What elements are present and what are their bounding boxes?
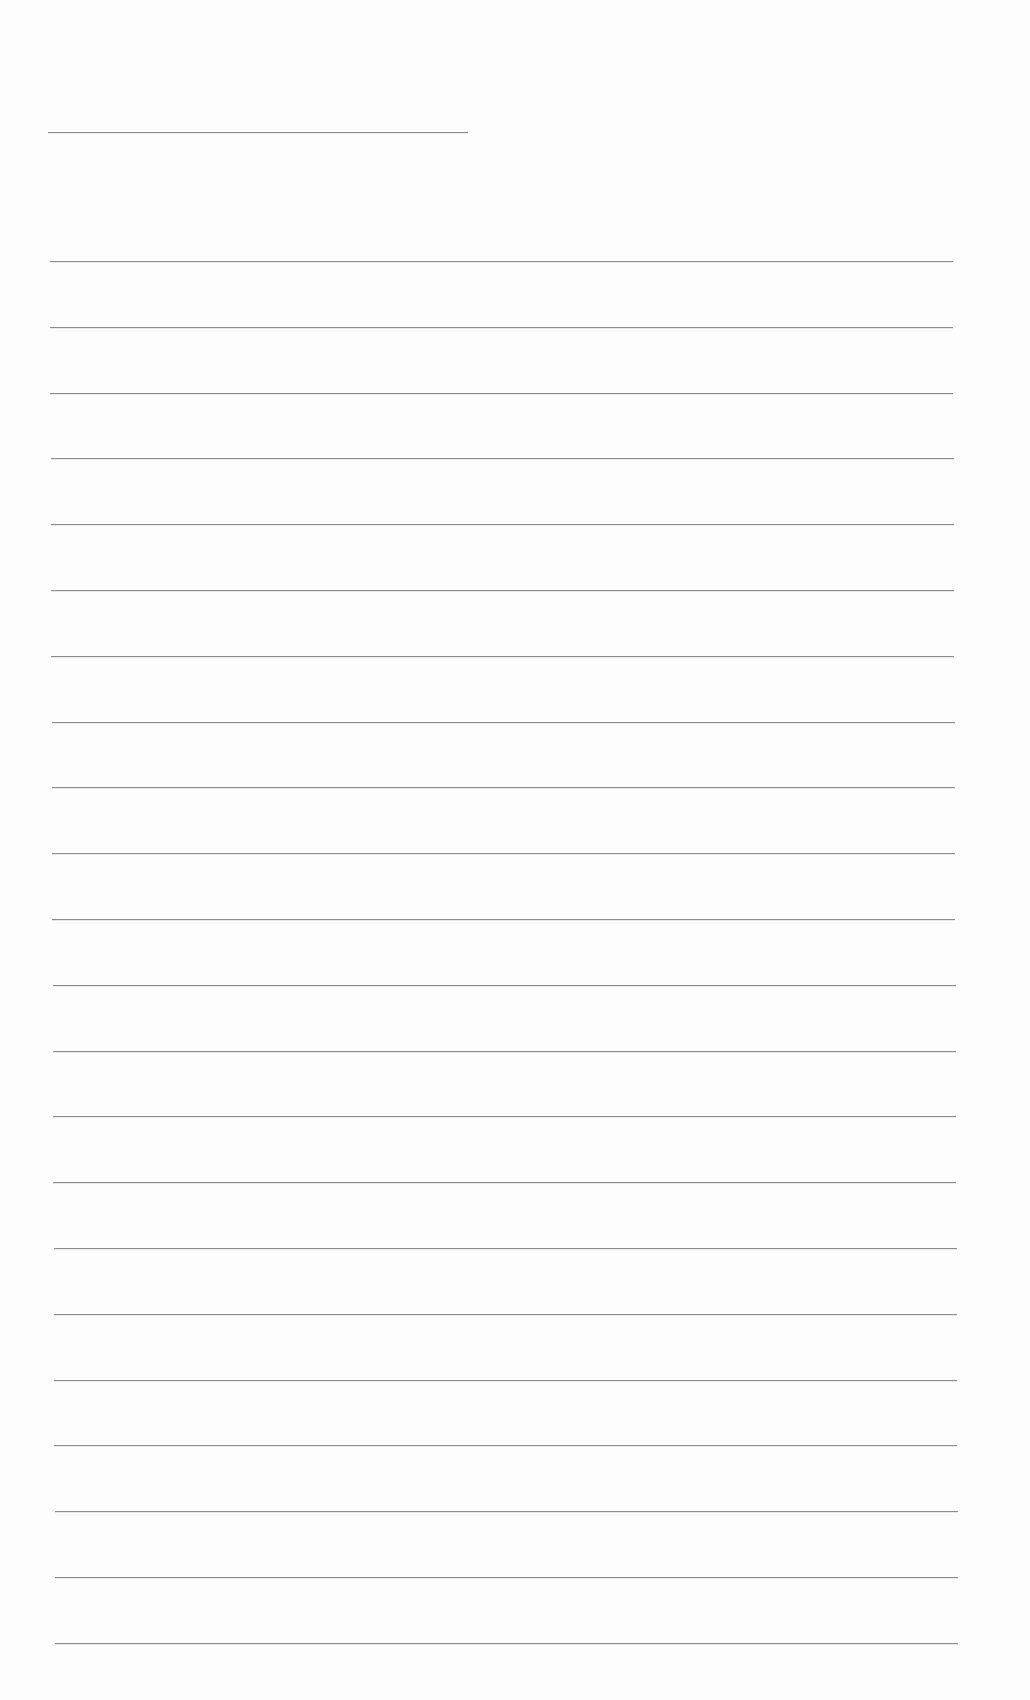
- ruled-line: [51, 458, 954, 459]
- ruled-line: [53, 1116, 956, 1117]
- ruled-line: [52, 853, 955, 854]
- ruled-line: [55, 1511, 958, 1512]
- ruled-line: [53, 1051, 956, 1052]
- ruled-line: [51, 656, 954, 657]
- ruled-line: [54, 1314, 957, 1315]
- ruled-line: [51, 590, 954, 591]
- ruled-line: [51, 524, 954, 525]
- header-name-line: [48, 132, 468, 133]
- ruled-line: [54, 1445, 957, 1446]
- lined-page: [0, 0, 1030, 1700]
- ruled-line: [50, 327, 953, 328]
- ruled-line: [53, 1182, 956, 1183]
- ruled-line: [52, 722, 955, 723]
- ruled-line: [54, 1380, 957, 1381]
- ruled-line: [50, 393, 953, 394]
- ruled-line: [52, 919, 955, 920]
- ruled-line: [55, 1577, 958, 1578]
- ruled-line: [52, 787, 955, 788]
- ruled-line: [50, 261, 953, 262]
- ruled-line: [55, 1643, 958, 1644]
- ruled-line: [54, 1248, 957, 1249]
- ruled-line: [53, 985, 956, 986]
